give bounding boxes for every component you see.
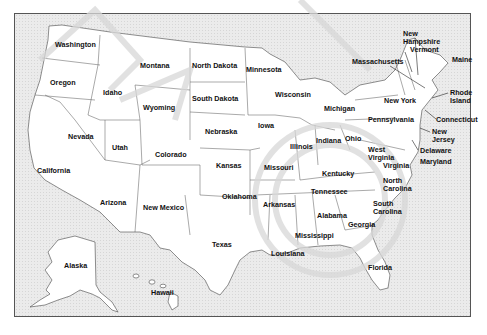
label-alabama: Alabama <box>317 212 347 220</box>
label-oregon: Oregon <box>50 79 76 87</box>
label-rhode-island: Rhode Island <box>450 89 476 104</box>
label-illinois: Illinois <box>290 143 313 151</box>
label-mississippi: Mississippi <box>295 232 334 240</box>
hawaii-island-kauai <box>133 274 139 278</box>
label-pennsylvania: Pennsylvania <box>368 116 414 124</box>
label-new-hampshire: New Hampshire <box>403 30 439 45</box>
label-nebraska: Nebraska <box>205 128 237 136</box>
label-alaska: Alaska <box>64 262 87 270</box>
label-georgia: Georgia <box>348 221 375 229</box>
label-north-carolina: North Carolina <box>383 177 417 192</box>
label-louisiana: Louisiana <box>271 250 305 258</box>
label-idaho: Idaho <box>103 89 122 97</box>
label-virginia: Virginia <box>383 162 409 170</box>
label-missouri: Missouri <box>264 164 294 172</box>
label-tennessee: Tennessee <box>311 188 348 196</box>
label-north-dakota: North Dakota <box>192 62 237 70</box>
label-massachusetts: Massachusetts <box>352 58 404 66</box>
label-south-dakota: South Dakota <box>192 95 238 103</box>
label-minnesota: Minnesota <box>246 66 282 74</box>
hawaii-island-oahu <box>149 280 155 284</box>
label-arizona: Arizona <box>100 199 126 207</box>
label-kentucky: Kentucky <box>322 170 354 178</box>
label-wisconsin: Wisconsin <box>275 91 311 99</box>
label-connecticut: Connecticut <box>436 116 478 124</box>
label-iowa: Iowa <box>258 122 274 130</box>
label-oklahoma: Oklahoma <box>222 193 257 201</box>
label-kansas: Kansas <box>216 162 242 170</box>
label-indiana: Indiana <box>316 137 341 145</box>
label-west-virginia: West Virginia <box>368 146 398 161</box>
label-new-york: New York <box>384 97 416 105</box>
label-washington: Washington <box>55 41 96 49</box>
label-arkansas: Arkansas <box>263 201 295 209</box>
label-vermont: Vermont <box>410 46 439 54</box>
alaska-shape <box>30 236 118 312</box>
label-texas: Texas <box>212 241 232 249</box>
label-ohio: Ohio <box>345 135 361 143</box>
label-utah: Utah <box>112 144 128 152</box>
label-wyoming: Wyoming <box>143 104 175 112</box>
label-new-mexico: New Mexico <box>143 204 184 212</box>
label-california: California <box>37 167 70 175</box>
label-hawaii: Hawaii <box>151 289 174 297</box>
label-michigan: Michigan <box>324 105 355 113</box>
label-new-jersey: New Jersey <box>432 128 456 143</box>
label-colorado: Colorado <box>155 151 187 159</box>
leader-new-jersey <box>420 128 430 132</box>
label-south-carolina: South Carolina <box>373 200 405 215</box>
label-maine: Maine <box>452 56 472 64</box>
label-montana: Montana <box>140 62 170 70</box>
label-maryland: Maryland <box>420 158 452 166</box>
label-florida: Florida <box>368 264 392 272</box>
leader-connecticut <box>425 110 436 119</box>
label-delaware: Delaware <box>420 147 452 155</box>
label-nevada: Nevada <box>68 133 94 141</box>
